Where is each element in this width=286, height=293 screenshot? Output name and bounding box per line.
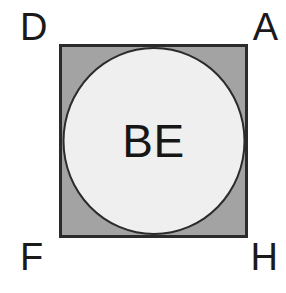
corner-label-top-right: A [253, 8, 278, 46]
corner-label-bottom-left: F [20, 238, 43, 276]
geometry-figure: D A BE F H [0, 0, 286, 293]
circle-label: BE [122, 118, 184, 164]
corner-label-bottom-right: H [251, 238, 278, 276]
corner-label-top-left: D [20, 8, 47, 46]
inscribed-circle-shape: BE [62, 47, 245, 235]
square-shape: BE [59, 44, 248, 238]
